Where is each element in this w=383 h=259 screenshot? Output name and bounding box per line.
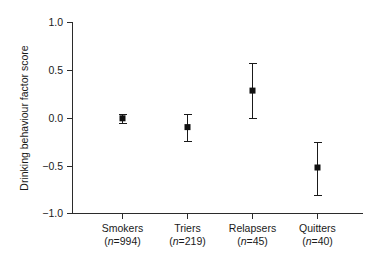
chart-figure: 1.0 0.5 0.0 −0.5 −1.0 Drinking behaviour…	[0, 0, 383, 259]
category-count-triers: (n=219)	[169, 235, 206, 247]
marker-quitters	[315, 165, 321, 171]
marker-relapsers	[250, 88, 256, 94]
chart-background	[0, 0, 383, 259]
errorbar-chart: 1.0 0.5 0.0 −0.5 −1.0 Drinking behaviour…	[0, 0, 383, 259]
y-tick-label-1: 1.0	[48, 16, 63, 28]
y-tick-label-3: 0.0	[48, 112, 63, 124]
y-tick-label-4: −0.5	[42, 160, 63, 172]
category-label-relapsers: Relapsers	[229, 222, 276, 234]
y-tick-label-5: −1.0	[42, 207, 63, 219]
y-tick-label-2: 0.5	[48, 64, 63, 76]
category-count-quitters: (n=40)	[302, 235, 333, 247]
category-count-relapsers: (n=45)	[237, 235, 268, 247]
category-label-smokers: Smokers	[102, 222, 143, 234]
category-label-quitters: Quitters	[299, 222, 336, 234]
marker-triers	[185, 124, 191, 130]
category-label-triers: Triers	[174, 222, 200, 234]
marker-smokers	[120, 115, 126, 121]
y-axis-title: Drinking behaviour factor score	[18, 45, 30, 190]
category-count-smokers: (n=994)	[104, 235, 141, 247]
